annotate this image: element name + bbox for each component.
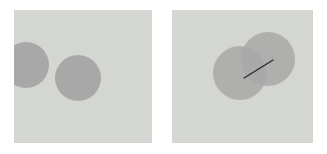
overlapping-circles-panel: [172, 10, 313, 143]
panel-left-canvas: [14, 10, 152, 143]
circle-b: [241, 32, 295, 86]
panel-right-canvas: [172, 10, 313, 143]
disjoint-circles-panel: [14, 10, 152, 143]
circle-b: [55, 55, 101, 101]
figure-root: [0, 0, 327, 154]
